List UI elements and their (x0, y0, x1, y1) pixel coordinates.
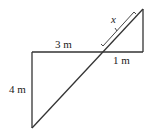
label-4m: 4 m (9, 83, 26, 95)
label-3m: 3 m (55, 38, 72, 50)
similar-triangles-diagram: 3 m 1 m 4 m x (0, 0, 151, 139)
diagonal-line (32, 9, 143, 128)
label-1m: 1 m (113, 54, 130, 66)
label-x: x (110, 13, 116, 25)
x-brace (101, 12, 136, 46)
